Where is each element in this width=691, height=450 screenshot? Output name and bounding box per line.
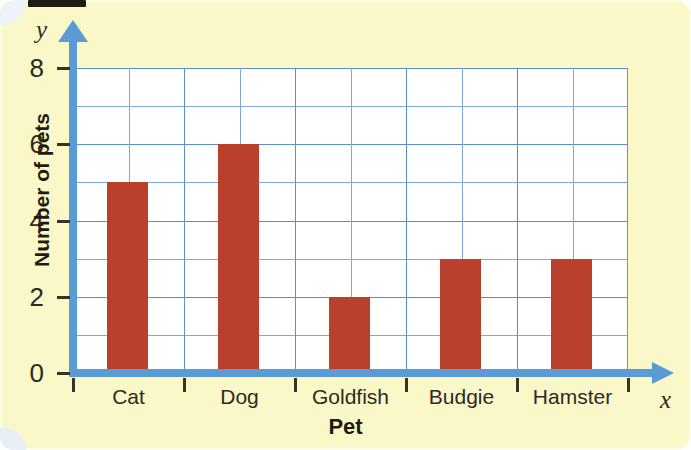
y-tick-label: 0 [4, 360, 44, 386]
x-axis-title: Pet [0, 414, 691, 440]
y-tick [57, 143, 70, 146]
bar-hamster [551, 259, 592, 373]
plot-area [73, 68, 628, 373]
chart-page: 02468 CatDogGoldfishBudgieHamster y x Nu… [0, 0, 691, 450]
y-tick [57, 372, 70, 375]
y-axis-letter: y [36, 16, 47, 44]
page-scan-artifact [28, 0, 86, 7]
y-tick [57, 67, 70, 70]
page-corner-top-left [0, 0, 26, 26]
y-tick-label: 8 [4, 55, 44, 81]
y-axis-arrow-icon [58, 20, 88, 42]
x-category-label-hamster: Hamster [503, 386, 643, 407]
bar-cat [107, 182, 148, 373]
x-axis-line [69, 369, 656, 377]
y-tick [57, 296, 70, 299]
bar-dog [218, 144, 259, 373]
y-axis-line [69, 38, 77, 375]
x-axis-letter: x [660, 386, 671, 414]
y-axis-title: Number of pets [30, 85, 54, 295]
x-axis-arrow-icon [652, 362, 674, 384]
bar-budgie [440, 259, 481, 373]
bar-series [73, 68, 628, 373]
bar-goldfish [329, 297, 370, 373]
y-tick [57, 220, 70, 223]
